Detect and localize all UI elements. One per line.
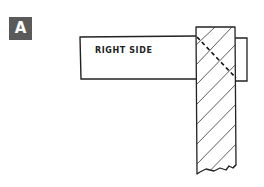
right-side-board (80, 36, 197, 79)
board-label-text: RIGHT SIDE (95, 46, 152, 55)
tenon-end (235, 38, 247, 81)
vertical-post (196, 27, 240, 187)
joinery-sketch: RIGHT SIDE (0, 0, 264, 187)
